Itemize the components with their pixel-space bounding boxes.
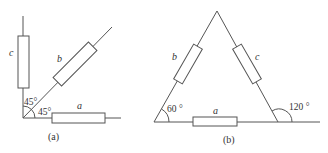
resistor-b-b-group <box>174 44 203 84</box>
label-c: c <box>9 47 14 58</box>
label-a: a <box>77 100 82 111</box>
resistor-c <box>18 36 29 88</box>
angle-right: 120 ° <box>289 102 310 112</box>
label-a-b: a <box>213 105 218 116</box>
label-b: b <box>57 53 62 64</box>
angle-upper: 45° <box>24 97 38 107</box>
label-c-b: c <box>255 51 260 62</box>
resistor-a-b <box>193 117 237 126</box>
caption-a: (a) <box>48 131 59 143</box>
diagram-canvas: c a b 45° 45° (a) a b <box>0 0 328 153</box>
figure-a: c a b 45° 45° (a) <box>9 16 121 143</box>
arc-lower-45 <box>32 110 36 119</box>
caption-b: (b) <box>223 134 235 146</box>
figure-b: a b c 60 ° 120 ° (b) <box>154 11 320 146</box>
resistor-b-group <box>53 42 97 86</box>
angle-lower: 45° <box>38 107 52 117</box>
label-b-b: b <box>172 51 177 62</box>
angle-left: 60 ° <box>167 104 183 114</box>
resistor-a <box>52 113 105 123</box>
resistor-b <box>53 42 97 86</box>
resistor-b-b <box>174 44 203 84</box>
